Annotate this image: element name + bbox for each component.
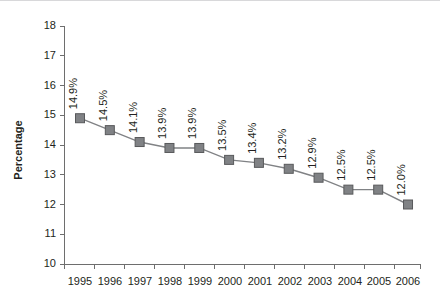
data-marker-2003 xyxy=(314,173,323,182)
data-marker-1996 xyxy=(105,126,114,135)
data-label-2002: 13.2% xyxy=(276,128,288,159)
y-tick-label-13: 13 xyxy=(44,168,56,180)
x-tick-label-2004: 2004 xyxy=(338,275,362,287)
x-tick-label-2003: 2003 xyxy=(308,275,332,287)
data-label-1995: 14.9% xyxy=(67,78,79,109)
x-tick-label-2002: 2002 xyxy=(278,275,302,287)
data-label-1996: 14.5% xyxy=(97,90,109,121)
x-tick-label-2006: 2006 xyxy=(396,275,420,287)
y-axis-title: Percentage xyxy=(12,120,24,179)
data-label-1997: 14.1% xyxy=(127,102,139,133)
line-chart: Percentage 10 11 12 13 14 15 16 17 18 xyxy=(0,0,440,303)
data-marker-2001 xyxy=(254,158,263,167)
x-tick-label-2001: 2001 xyxy=(248,275,272,287)
data-marker-2002 xyxy=(284,164,293,173)
y-tick-label-18: 18 xyxy=(44,19,56,31)
x-tick-label-1999: 1999 xyxy=(188,275,212,287)
y-tick-label-11: 11 xyxy=(45,227,56,239)
data-label-2006: 12.0% xyxy=(395,164,407,195)
y-axis-ticks xyxy=(60,26,64,264)
data-marker-2006 xyxy=(404,200,413,209)
y-tick-label-12: 12 xyxy=(44,198,56,210)
data-marker-2004 xyxy=(344,185,353,194)
x-tick-label-1996: 1996 xyxy=(98,275,122,287)
chart-container: Percentage 10 11 12 13 14 15 16 17 18 xyxy=(0,0,440,303)
data-marker-1995 xyxy=(76,114,85,123)
y-tick-label-10: 10 xyxy=(44,257,56,269)
x-tick-label-1995: 1995 xyxy=(68,275,92,287)
x-tick-label-2000: 2000 xyxy=(218,275,242,287)
data-marker-1998 xyxy=(165,143,174,152)
y-tick-label-16: 16 xyxy=(44,79,56,91)
data-marker-1997 xyxy=(135,138,144,147)
data-label-2005: 12.5% xyxy=(365,149,377,180)
data-marker-2000 xyxy=(225,155,234,164)
y-tick-label-14: 14 xyxy=(44,138,56,150)
data-label-1999: 13.9% xyxy=(186,108,198,139)
x-tick-label-2005: 2005 xyxy=(367,275,391,287)
y-tick-label-15: 15 xyxy=(44,108,56,120)
x-tick-label-1997: 1997 xyxy=(128,275,152,287)
data-label-2001: 13.4% xyxy=(246,122,258,153)
data-marker-2005 xyxy=(374,185,383,194)
data-point-labels: 14.9%14.5%14.1%13.9%13.9%13.5%13.4%13.2%… xyxy=(67,78,407,196)
y-tick-label-17: 17 xyxy=(44,49,56,61)
data-marker-1999 xyxy=(195,143,204,152)
data-label-2003: 12.9% xyxy=(306,137,318,168)
data-label-1998: 13.9% xyxy=(156,108,168,139)
x-tick-label-1998: 1998 xyxy=(158,275,182,287)
data-label-2004: 12.5% xyxy=(335,149,347,180)
data-label-2000: 13.5% xyxy=(216,119,228,150)
